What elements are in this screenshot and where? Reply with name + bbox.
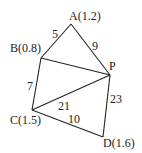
node-label-A: A(1.2) [69, 9, 101, 23]
node-label-C: C(1.5) [10, 113, 41, 127]
edge-label-B-C: 7 [27, 79, 33, 93]
edge-label-C-P: 21 [58, 99, 70, 113]
edge-B-P [41, 58, 110, 75]
node-label-P: P [109, 59, 116, 73]
edge-label-A-P: 9 [92, 39, 98, 53]
edge-label-C-D: 10 [68, 112, 80, 126]
edge-label-A-B: 5 [52, 27, 58, 41]
edge-B-C [32, 58, 41, 110]
edge-C-P [32, 75, 110, 110]
node-label-B: B(0.8) [10, 41, 41, 55]
edge-P-D [103, 75, 110, 137]
graph-diagram: A(1.2) B(0.8) P C(1.5) D(1.6) 5 9 7 21 1… [0, 0, 142, 153]
diagram-canvas: A(1.2) B(0.8) P C(1.5) D(1.6) 5 9 7 21 1… [0, 0, 142, 153]
edge-label-P-D: 23 [110, 92, 122, 106]
node-label-D: D(1.6) [103, 136, 135, 150]
